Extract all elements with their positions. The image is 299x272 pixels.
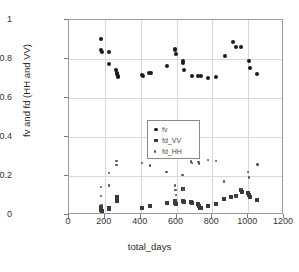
data-point-fv (165, 64, 169, 68)
data-point-fd_VV (222, 197, 226, 201)
data-point-fd_VV (182, 200, 186, 204)
y-tick-label: 0.6 (0, 93, 12, 102)
data-point-fv (255, 72, 259, 76)
y-tick-label: 1 (0, 15, 12, 24)
data-point-fd_HH (100, 195, 102, 197)
x-tick-label: 1000 (227, 217, 267, 226)
gridline-horizontal (69, 176, 282, 177)
data-point-fd_VV (148, 204, 152, 208)
data-point-fv (141, 74, 145, 78)
data-point-fv (248, 66, 252, 70)
legend-marker-fd-vv-icon (148, 135, 162, 146)
legend-label: fv (162, 126, 167, 133)
data-point-fd_HH (182, 188, 184, 190)
gridline-vertical (105, 20, 106, 213)
data-point-fv (239, 45, 243, 49)
y-tick-label: 0.4 (0, 132, 12, 141)
data-point-fd_HH (248, 176, 250, 178)
y-tick-label: 0 (0, 210, 12, 219)
scatter-chart: fv and fd (HH and VV) total_days 00.20.4… (0, 0, 299, 272)
x-tick-mark (68, 214, 69, 218)
x-tick-label: 1200 (263, 217, 299, 226)
data-point-fd_HH (223, 180, 225, 182)
x-tick-label: 800 (191, 217, 231, 226)
data-point-fd_HH (215, 160, 217, 162)
data-point-fd_VV (255, 198, 259, 202)
data-point-fd_VV (107, 207, 111, 211)
legend-item: fd_VV (148, 135, 199, 146)
data-point-fv (231, 40, 235, 44)
data-point-fd_HH (198, 162, 200, 164)
data-point-fd_VV (100, 209, 104, 213)
y-axis-label: fv and fd (HH and VV) (21, 11, 32, 171)
legend-item: fd_HH (148, 146, 199, 157)
data-point-fv (181, 61, 185, 65)
data-point-fd_VV (229, 195, 233, 199)
data-point-fd_HH (108, 184, 110, 186)
data-point-fv (214, 75, 218, 79)
data-point-fd_VV (199, 206, 203, 210)
x-axis-label: total_days (0, 241, 299, 252)
data-point-fd_VV (206, 204, 210, 208)
legend-label: fd_VV (162, 137, 181, 144)
data-point-fd_HH (115, 164, 117, 166)
x-tick-mark (140, 214, 141, 218)
data-point-fv (116, 74, 120, 78)
x-tick-label: 0 (48, 217, 88, 226)
data-point-fd_HH (174, 189, 176, 191)
x-tick-label: 600 (156, 217, 196, 226)
y-tick-label: 0.2 (0, 171, 12, 180)
legend-marker-fd-hh-icon (148, 146, 162, 157)
data-point-fd_VV (190, 201, 194, 205)
x-tick-label: 200 (84, 217, 124, 226)
data-point-fd_HH (175, 194, 177, 196)
x-tick-mark (247, 214, 248, 218)
legend-item: fv (148, 124, 199, 135)
legend: fv fd_VV fd_HH (147, 120, 200, 159)
gridline-vertical (248, 20, 249, 213)
legend-label: fd_HH (162, 148, 182, 155)
data-point-fd_HH (174, 184, 176, 186)
data-point-fd_VV (240, 190, 244, 194)
data-point-fd_VV (165, 201, 169, 205)
y-tick-label: 0.8 (0, 54, 12, 63)
data-point-fv (174, 52, 178, 56)
data-point-fv (206, 76, 210, 80)
data-point-fv (234, 45, 238, 49)
data-point-fd_HH (191, 162, 193, 164)
data-point-fv (190, 74, 194, 78)
x-tick-label: 400 (120, 217, 160, 226)
data-point-fd_HH (207, 159, 209, 161)
data-point-fd_VV (214, 202, 218, 206)
gridline-horizontal (69, 98, 282, 99)
data-point-fd_HH (256, 163, 258, 165)
data-point-fv (107, 62, 111, 66)
gridline-vertical (141, 20, 142, 213)
data-point-fv (182, 68, 186, 72)
data-point-fd_HH (100, 186, 102, 188)
gridline-vertical (212, 20, 213, 213)
data-point-fv (247, 59, 251, 63)
data-point-fv (223, 54, 227, 58)
x-tick-mark (104, 214, 105, 218)
legend-marker-fv-icon (148, 124, 162, 135)
data-point-fd_VV (248, 195, 252, 199)
data-point-fv (107, 50, 111, 54)
data-point-fd_HH (149, 164, 151, 166)
data-point-fv (99, 37, 103, 41)
data-point-fd_VV (140, 206, 144, 210)
data-point-fd_HH (115, 160, 117, 162)
x-tick-mark (283, 214, 284, 218)
data-point-fd_HH (165, 171, 167, 173)
data-point-fd_VV (174, 202, 178, 206)
data-point-fd_HH (108, 172, 110, 174)
data-point-fv (199, 74, 203, 78)
data-point-fd_HH (141, 162, 143, 164)
plot-area: fv fd_VV fd_HH (68, 19, 283, 214)
data-point-fd_VV (115, 199, 119, 203)
x-tick-mark (176, 214, 177, 218)
data-point-fv (149, 71, 153, 75)
x-tick-mark (211, 214, 212, 218)
data-point-fv (100, 50, 104, 54)
